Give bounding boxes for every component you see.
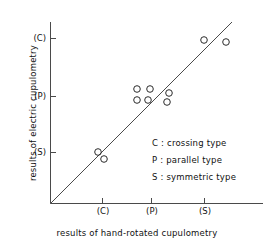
scatter-chart-figure: (C) (P) (S) (C) (P) (S) C : crossing typ…	[0, 0, 274, 247]
legend-item-crossing: C : crossing type	[152, 138, 226, 148]
x-tick-label-p: (P)	[137, 206, 167, 216]
data-point	[134, 97, 141, 104]
data-point	[166, 90, 173, 97]
data-point	[95, 149, 102, 156]
data-point	[223, 39, 230, 46]
x-tick-label-c: (C)	[88, 206, 118, 216]
data-point	[145, 97, 152, 104]
data-point	[101, 156, 108, 163]
data-point	[164, 99, 171, 106]
data-point	[147, 86, 154, 93]
legend-item-parallel: P : parallel type	[152, 155, 222, 165]
data-point	[201, 37, 208, 44]
data-point	[134, 86, 141, 93]
x-tick-label-s: (S)	[190, 206, 220, 216]
x-axis-title: results of hand-rotated cupulometry	[0, 228, 274, 238]
legend-item-symmetric: S : symmetric type	[152, 172, 236, 182]
y-axis-title: results of electric cupulometry	[28, 13, 38, 213]
